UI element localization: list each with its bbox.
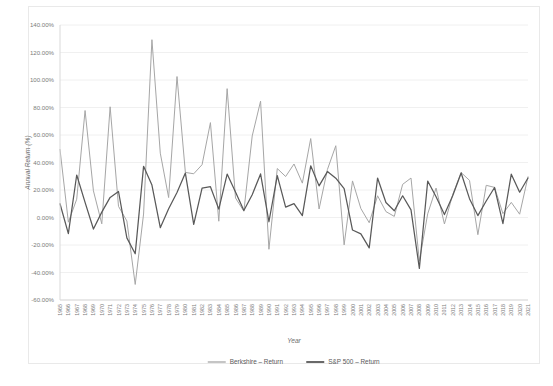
legend-label: S&P 500 – Return bbox=[328, 358, 380, 365]
x-axis-tick-label: 2001 bbox=[358, 304, 364, 316]
x-axis-tick-label: 1990 bbox=[266, 304, 272, 316]
x-axis-tick-labels: 1965196619671968196919701971197219731974… bbox=[57, 304, 531, 316]
x-axis-tick-label: 2012 bbox=[450, 304, 456, 316]
x-axis-tick-label: 1998 bbox=[333, 304, 339, 316]
x-axis-tick-label: 1982 bbox=[199, 304, 205, 316]
x-axis-tick-label: 2021 bbox=[525, 304, 531, 316]
y-axis-tick-label: 60.00% bbox=[33, 131, 54, 138]
x-axis-tick-label: 1988 bbox=[249, 304, 255, 316]
x-axis-tick-label: 2014 bbox=[467, 304, 473, 316]
x-axis-tick-label: 2007 bbox=[408, 304, 414, 316]
x-axis-tick-label: 1985 bbox=[224, 304, 230, 316]
x-axis-tick-label: 1989 bbox=[258, 304, 264, 316]
x-axis-tick-label: 1977 bbox=[157, 304, 163, 316]
x-axis-tick-label: 1965 bbox=[57, 304, 63, 316]
x-axis-tick-label: 1993 bbox=[291, 304, 297, 316]
x-axis-tick-label: 2009 bbox=[425, 304, 431, 316]
y-axis-tick-label: 0.00% bbox=[37, 214, 55, 221]
x-axis-tick-label: 2003 bbox=[375, 304, 381, 316]
x-axis-tick-label: 1968 bbox=[82, 304, 88, 316]
x-axis-tick-label: 2020 bbox=[517, 304, 523, 316]
y-axis-tick-label: 100.00% bbox=[30, 76, 55, 83]
x-axis-tick-label: 2017 bbox=[492, 304, 498, 316]
legend-label: Berkshire – Return bbox=[230, 358, 284, 365]
x-axis-tick-label: 1981 bbox=[191, 304, 197, 316]
x-axis-tick-label: 2019 bbox=[508, 304, 514, 316]
y-axis-tick-labels: 140.00%120.00%100.00%80.00%60.00%40.00%2… bbox=[30, 21, 55, 303]
x-axis-tick-label: 2004 bbox=[383, 304, 389, 316]
y-axis-tick-label: 120.00% bbox=[30, 49, 55, 56]
y-axis-tick-label: 20.00% bbox=[33, 186, 54, 193]
x-axis-tick-label: 1984 bbox=[216, 304, 222, 316]
gridlines-group bbox=[60, 25, 528, 300]
x-axis-tick-label: 1980 bbox=[182, 304, 188, 316]
x-axis-tick-label: 2002 bbox=[366, 304, 372, 316]
x-axis-tick-label: 1991 bbox=[274, 304, 280, 316]
x-axis-tick-label: 1971 bbox=[107, 304, 113, 316]
x-axis-tick-label: 1978 bbox=[166, 304, 172, 316]
annual-return-line-chart: 140.00%120.00%100.00%80.00%60.00%40.00%2… bbox=[0, 0, 553, 386]
x-axis-tick-label: 2005 bbox=[391, 304, 397, 316]
x-axis-tick-label: 2015 bbox=[475, 304, 481, 316]
x-axis-tick-label: 1987 bbox=[241, 304, 247, 316]
x-axis-tick-label: 1969 bbox=[90, 304, 96, 316]
x-axis-tick-label: 1992 bbox=[283, 304, 289, 316]
x-axis-tick-label: 1997 bbox=[324, 304, 330, 316]
x-axis-tick-label: 1974 bbox=[132, 304, 138, 316]
x-axis-tick-label: 2008 bbox=[416, 304, 422, 316]
x-axis-tick-label: 1994 bbox=[299, 304, 305, 316]
x-axis-tick-label: 2018 bbox=[500, 304, 506, 316]
x-axis-tick-label: 2011 bbox=[441, 304, 447, 315]
x-axis-tick-label: 2006 bbox=[400, 304, 406, 316]
x-axis-tick-label: 1986 bbox=[233, 304, 239, 316]
x-axis-tick-label: 1976 bbox=[149, 304, 155, 316]
x-axis-tick-label: 1973 bbox=[124, 304, 130, 316]
x-axis-tick-label: 1983 bbox=[207, 304, 213, 316]
x-axis-tick-label: 1970 bbox=[99, 304, 105, 316]
x-axis-tick-label: 2000 bbox=[350, 304, 356, 316]
x-axis-tick-label: 1995 bbox=[308, 304, 314, 316]
chart-canvas: 140.00%120.00%100.00%80.00%60.00%40.00%2… bbox=[0, 0, 553, 386]
x-axis-tick-label: 1975 bbox=[141, 304, 147, 316]
y-axis-tick-label: -60.00% bbox=[31, 296, 54, 303]
chart-legend: Berkshire – ReturnS&P 500 – Return bbox=[208, 358, 380, 365]
y-axis-title: Annual Return (%) bbox=[24, 135, 32, 190]
x-axis-tick-label: 1979 bbox=[174, 304, 180, 316]
x-axis-tick-label: 1972 bbox=[116, 304, 122, 316]
x-axis-tick-label: 1966 bbox=[65, 304, 71, 316]
x-axis-title: Year bbox=[287, 337, 301, 344]
y-axis-tick-label: -40.00% bbox=[31, 269, 54, 276]
y-axis-tick-label: 80.00% bbox=[33, 104, 54, 111]
y-axis-tick-label: 40.00% bbox=[33, 159, 54, 166]
y-axis-tick-label: -20.00% bbox=[31, 241, 54, 248]
x-axis-tick-label: 2010 bbox=[433, 304, 439, 316]
x-axis-tick-label: 1999 bbox=[341, 304, 347, 316]
x-axis-tick-label: 2016 bbox=[483, 304, 489, 316]
y-axis-tick-label: 140.00% bbox=[30, 21, 55, 28]
x-axis-tick-label: 1967 bbox=[74, 304, 80, 316]
x-axis-tick-label: 2013 bbox=[458, 304, 464, 316]
x-axis-tick-label: 1996 bbox=[316, 304, 322, 316]
